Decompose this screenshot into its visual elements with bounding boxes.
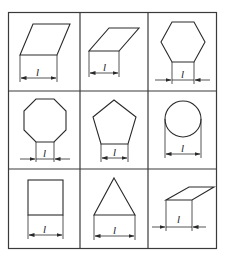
cell-parallelogram-flat-small: l: [152, 187, 214, 231]
dimension-label: l: [181, 68, 184, 80]
parallelogram-shape: [20, 24, 70, 55]
cell-parallelogram-tall: l: [20, 24, 70, 82]
cell-parallelogram-flat: l: [89, 28, 139, 77]
parallelogram-shape: [89, 28, 139, 51]
cell-square: l: [28, 180, 63, 239]
shape-dimension-diagram: l l l l l: [0, 0, 226, 258]
dimension-label: l: [181, 142, 184, 154]
cell-triangle: l: [94, 178, 135, 240]
circle-shape: [165, 101, 201, 137]
octagon-shape: [24, 99, 66, 142]
table-grid: [8, 12, 217, 249]
dimension-label: l: [103, 61, 106, 73]
dimension-label: l: [36, 66, 39, 78]
dimension-label: l: [43, 147, 46, 159]
cell-circle: l: [165, 101, 201, 158]
dimension-label: l: [177, 213, 180, 225]
hexagon-shape: [161, 22, 205, 62]
triangle-shape: [94, 178, 135, 215]
dimension-label: l: [113, 224, 116, 236]
parallelogram-shape: [166, 187, 214, 200]
pentagon-shape: [93, 100, 136, 144]
dimension-label: l: [113, 146, 116, 158]
cell-pentagon: l: [93, 100, 136, 162]
cell-octagon: l: [20, 99, 70, 162]
cell-hexagon: l: [155, 22, 210, 84]
square-shape: [28, 180, 63, 215]
dimension-label: l: [43, 223, 46, 235]
